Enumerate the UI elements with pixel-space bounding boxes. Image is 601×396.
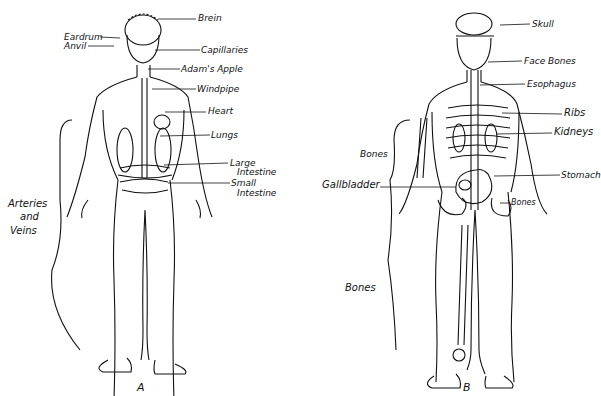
label-windpipe: Windpipe: [197, 84, 239, 94]
label-arteries: Arteries: [8, 199, 47, 209]
label-bones-arm: Bones: [360, 149, 388, 159]
label-gallbladder: Gallbladder: [322, 180, 380, 190]
label-heart: Heart: [208, 106, 233, 116]
label-bones-hip: Bones: [511, 198, 536, 208]
label-capillaries: Capillaries: [201, 45, 248, 55]
label-bones-leg: Bones: [345, 283, 376, 293]
label-brain: Brein: [198, 13, 222, 23]
caption-b: B: [463, 381, 471, 394]
label-stomach: Stomach: [561, 170, 601, 180]
label-face-bones: Face Bones: [524, 56, 576, 66]
caption-a: A: [137, 381, 145, 394]
label-small-intestine-2: Intestine: [237, 188, 276, 198]
label-and: and: [20, 212, 39, 222]
label-lungs: Lungs: [211, 130, 238, 140]
label-large-intestine-2: Intestine: [237, 167, 276, 177]
label-ribs: Ribs: [564, 108, 585, 118]
label-skull: Skull: [532, 19, 554, 29]
label-veins: Veins: [10, 226, 37, 236]
label-esophagus: Esophagus: [527, 79, 576, 89]
label-small-intestine-1: Small: [231, 178, 256, 188]
label-adams-apple: Adam's Apple: [181, 64, 243, 74]
label-anvil: Anvil: [64, 41, 86, 51]
label-kidneys: Kidneys: [554, 127, 593, 137]
